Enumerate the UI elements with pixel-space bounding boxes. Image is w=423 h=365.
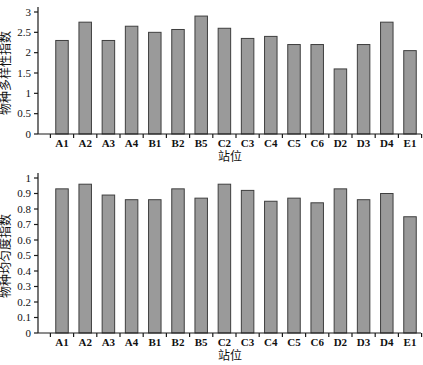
bar-C5 bbox=[288, 198, 301, 333]
bar-A3 bbox=[102, 40, 115, 134]
x-category-label-D3: D3 bbox=[357, 137, 371, 149]
x-category-label-D4: D4 bbox=[380, 336, 394, 348]
x-category-label-A3: A3 bbox=[102, 336, 116, 348]
x-axis-title: 站位 bbox=[218, 149, 242, 164]
y-tick-label: 3 bbox=[26, 6, 32, 18]
bar-A1 bbox=[56, 40, 69, 134]
bar-D2 bbox=[334, 69, 347, 134]
x-category-label-C2: C2 bbox=[218, 336, 232, 348]
x-category-label-C4: C4 bbox=[264, 336, 278, 348]
x-axis-title: 站位 bbox=[218, 348, 242, 363]
x-category-label-D4: D4 bbox=[380, 137, 394, 149]
bar-C5 bbox=[288, 45, 301, 134]
y-tick-label: 0 bbox=[26, 327, 32, 339]
y-tick-label: 0.5 bbox=[17, 249, 31, 261]
x-category-label-D3: D3 bbox=[357, 336, 371, 348]
bar-A1 bbox=[56, 189, 69, 333]
x-category-label-D2: D2 bbox=[334, 137, 348, 149]
y-tick-label: 0.3 bbox=[17, 280, 31, 292]
bar-A3 bbox=[102, 195, 115, 333]
y-tick-label: 0 bbox=[26, 128, 32, 140]
x-category-label-A3: A3 bbox=[102, 137, 116, 149]
x-category-label-E1: E1 bbox=[404, 336, 417, 348]
y-tick-label: 0.7 bbox=[17, 218, 31, 230]
species-evenness-chart: A1A2A3A4B1B2B5C2C3C4C5C6D2D3D4E100.10.20… bbox=[0, 170, 423, 365]
species-diversity-chart: A1A2A3A4B1B2B5C2C3C4C5C6D2D3D4E100.511.5… bbox=[0, 0, 423, 170]
x-category-label-A4: A4 bbox=[125, 336, 139, 348]
bar-C6 bbox=[311, 203, 324, 333]
x-category-label-C3: C3 bbox=[241, 137, 255, 149]
bar-C2 bbox=[218, 28, 231, 134]
x-category-label-A2: A2 bbox=[78, 336, 92, 348]
x-category-label-A2: A2 bbox=[78, 137, 92, 149]
x-category-label-B2: B2 bbox=[172, 137, 185, 149]
y-tick-label: 2.5 bbox=[17, 26, 31, 38]
bar-B5 bbox=[195, 198, 208, 333]
bar-D4 bbox=[381, 194, 394, 334]
bar-E1 bbox=[404, 217, 417, 333]
bar-B2 bbox=[172, 29, 185, 134]
x-category-label-C3: C3 bbox=[241, 336, 255, 348]
bar-B1 bbox=[149, 32, 162, 134]
y-tick-label: 0.6 bbox=[17, 234, 31, 246]
y-axis-title: 物种均匀度指数 bbox=[0, 214, 13, 298]
bar-A4 bbox=[125, 26, 138, 134]
bar-C4 bbox=[265, 36, 278, 134]
x-category-label-B5: B5 bbox=[195, 137, 208, 149]
bar-C4 bbox=[265, 201, 278, 333]
x-category-label-C5: C5 bbox=[287, 336, 301, 348]
x-category-label-B5: B5 bbox=[195, 336, 208, 348]
y-tick-label: 0.8 bbox=[17, 203, 31, 215]
bar-C3 bbox=[241, 38, 254, 134]
bar-D4 bbox=[381, 22, 394, 134]
y-tick-label: 0.4 bbox=[17, 265, 31, 277]
bar-D3 bbox=[357, 200, 370, 333]
dual-bar-chart-figure: A1A2A3A4B1B2B5C2C3C4C5C6D2D3D4E100.511.5… bbox=[0, 0, 423, 365]
bar-B2 bbox=[172, 189, 185, 333]
y-tick-label: 0.5 bbox=[17, 107, 31, 119]
x-category-label-C4: C4 bbox=[264, 137, 278, 149]
bar-E1 bbox=[404, 51, 417, 134]
bar-D3 bbox=[357, 45, 370, 134]
bar-C3 bbox=[241, 190, 254, 333]
bar-C2 bbox=[218, 184, 231, 333]
bar-A4 bbox=[125, 200, 138, 333]
bar-B1 bbox=[149, 200, 162, 333]
x-category-label-B1: B1 bbox=[148, 137, 161, 149]
bar-A2 bbox=[79, 22, 92, 134]
y-tick-label: 1.5 bbox=[17, 67, 31, 79]
x-category-label-A1: A1 bbox=[55, 336, 68, 348]
x-category-label-A1: A1 bbox=[55, 137, 68, 149]
y-tick-label: 2 bbox=[26, 46, 32, 58]
x-category-label-E1: E1 bbox=[404, 137, 417, 149]
x-category-label-C2: C2 bbox=[218, 137, 232, 149]
y-tick-label: 0.2 bbox=[17, 296, 31, 308]
x-category-label-B1: B1 bbox=[148, 336, 161, 348]
x-category-label-C6: C6 bbox=[310, 137, 324, 149]
bar-C6 bbox=[311, 45, 324, 134]
x-category-label-C6: C6 bbox=[310, 336, 324, 348]
bar-A2 bbox=[79, 184, 92, 333]
y-tick-label: 1 bbox=[26, 87, 32, 99]
x-category-label-D2: D2 bbox=[334, 336, 348, 348]
x-category-label-C5: C5 bbox=[287, 137, 301, 149]
x-category-label-A4: A4 bbox=[125, 137, 139, 149]
bar-D2 bbox=[334, 189, 347, 333]
y-tick-label: 0.9 bbox=[17, 187, 31, 199]
bar-B5 bbox=[195, 16, 208, 134]
x-category-label-B2: B2 bbox=[172, 336, 185, 348]
y-tick-label: 0.1 bbox=[17, 311, 31, 323]
y-axis-title: 物种多样性指数 bbox=[0, 31, 13, 115]
y-tick-label: 1 bbox=[26, 172, 32, 184]
